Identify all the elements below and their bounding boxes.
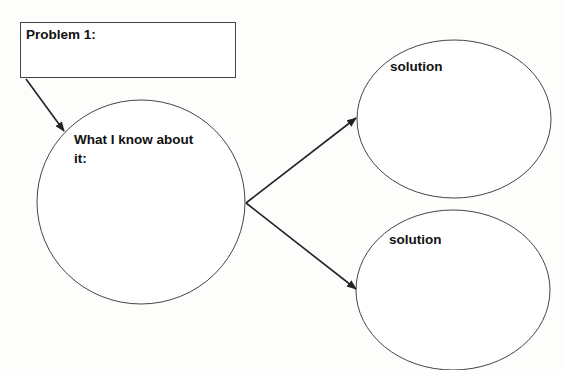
known-label-line2: it: [74, 150, 87, 168]
solution-ellipse-1 [357, 40, 551, 198]
arrow-problem-to-known [26, 79, 64, 131]
arrow-known-to-solution-2 [246, 203, 356, 289]
solution-ellipse-2 [356, 210, 550, 370]
known-label-line1: What I know about [74, 131, 193, 149]
solution-label-2: solution [389, 231, 442, 249]
arrow-known-to-solution-1 [246, 118, 356, 203]
solution-label-1: solution [390, 58, 443, 76]
problem-label: Problem 1: [26, 26, 96, 44]
